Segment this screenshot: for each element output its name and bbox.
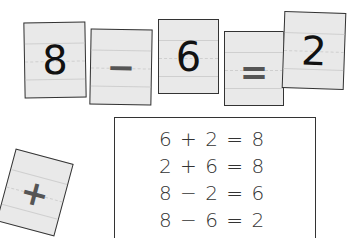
fact-family-list: 6 + 2 = 8 2 + 6 = 8 8 − 2 = 6 8 − 6 = 2 <box>159 126 265 234</box>
card-value: 2 <box>283 12 346 89</box>
fact-family-box: 6 + 2 = 8 2 + 6 = 8 8 − 2 = 6 8 − 6 = 2 <box>114 117 316 238</box>
number-card-2[interactable]: 2 <box>282 11 347 90</box>
card-value: 8 <box>24 22 85 97</box>
fact-equation: 8 − 2 = 6 <box>159 180 265 207</box>
plus-icon: + <box>0 150 72 236</box>
number-card-8[interactable]: 8 <box>23 21 86 98</box>
fact-equation: 2 + 6 = 8 <box>159 153 265 180</box>
operator-card-plus[interactable]: + <box>0 149 74 237</box>
number-card-6[interactable]: 6 <box>158 19 219 94</box>
operator-card-equals[interactable]: = <box>224 31 284 106</box>
fact-equation: 8 − 6 = 2 <box>159 207 265 234</box>
minus-icon: − <box>90 29 151 104</box>
fact-equation: 6 + 2 = 8 <box>159 126 265 153</box>
equals-icon: = <box>225 32 283 105</box>
card-value: 6 <box>159 20 218 93</box>
operator-card-minus[interactable]: − <box>89 28 152 105</box>
